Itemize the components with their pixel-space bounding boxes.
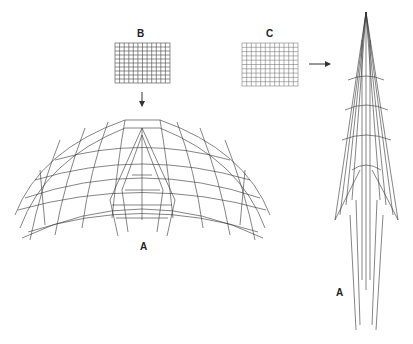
grid-b <box>115 43 170 83</box>
grid-c <box>242 43 298 86</box>
label-canopy-a: A <box>140 241 147 252</box>
label-folded-a: A <box>336 287 343 298</box>
label-grid-b: B <box>137 28 144 39</box>
folded-canopy-mesh <box>335 12 398 330</box>
dome-canopy-mesh <box>15 120 270 240</box>
diagram-canvas <box>0 0 413 344</box>
label-grid-c: C <box>266 28 273 39</box>
